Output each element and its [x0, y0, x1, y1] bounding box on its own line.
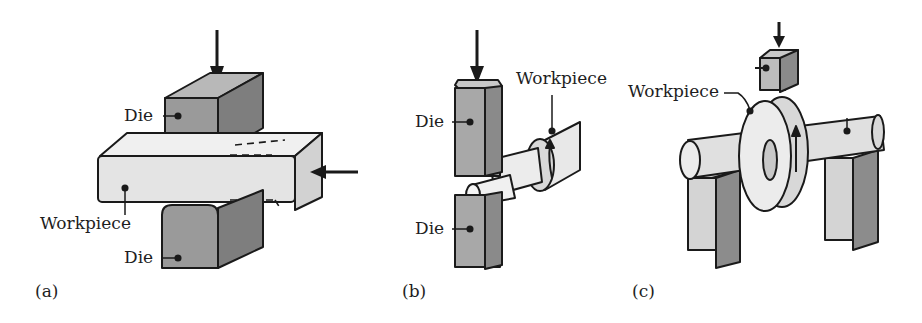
- down-arrow-icon: [470, 30, 484, 84]
- label-die-bottom: Die: [124, 249, 153, 266]
- right-support: [825, 150, 878, 250]
- edging-forging-illustration: [360, 0, 620, 323]
- panel-a: Die Workpiece Die (a): [0, 0, 360, 323]
- small-die: [755, 50, 798, 92]
- top-die: [455, 80, 502, 176]
- label-workpiece: Workpiece: [516, 70, 607, 87]
- label-die-top: Die: [124, 107, 153, 124]
- panel-b: Workpiece Die Die (b): [360, 0, 620, 323]
- left-support: [688, 170, 740, 268]
- panel-c: Workpiece (c): [620, 0, 922, 323]
- open-die-forging-illustration: [0, 0, 360, 323]
- down-arrow-icon: [773, 22, 785, 48]
- workpiece-bar: [98, 133, 322, 210]
- caption-a: (a): [35, 283, 58, 300]
- label-workpiece: Workpiece: [40, 215, 131, 232]
- bottom-die: [455, 192, 502, 269]
- label-die-top: Die: [415, 113, 444, 130]
- caption-c: (c): [632, 283, 655, 300]
- label-workpiece: Workpiece: [628, 83, 719, 100]
- caption-b: (b): [402, 283, 426, 300]
- ring-forging-illustration: [620, 0, 922, 323]
- label-die-bottom: Die: [415, 220, 444, 237]
